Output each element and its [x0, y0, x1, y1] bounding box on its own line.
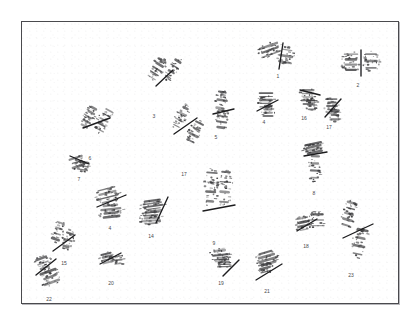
chromosome-label-2: 2: [357, 83, 360, 88]
chromosome-label-5: 5: [215, 135, 218, 140]
plate-inner: 12361754161787414152220919211823: [22, 22, 398, 303]
chromosome-label-8: 8: [313, 191, 316, 196]
chromosome-body-17: [319, 93, 348, 128]
chromosome-group-5: [209, 86, 240, 137]
chromosome-body-1: [254, 36, 302, 73]
chromosome-group-4: [89, 179, 130, 230]
chromosome-label-1: 1: [277, 74, 280, 79]
chromosome-body-14: [136, 192, 172, 236]
chromosome-group-8: [297, 134, 336, 188]
chromosome-body-4: [89, 179, 130, 230]
chromosome-body-22: [28, 249, 67, 294]
chromosome-body-9: [198, 165, 252, 215]
chromosome-label-4: 4: [263, 120, 266, 125]
chromosome-group-3: [143, 53, 192, 90]
chromosome-label-17: 17: [326, 125, 332, 130]
chromosome-label-16: 16: [301, 116, 307, 121]
chromosome-group-2: [339, 47, 388, 80]
chromosome-group-17: [167, 101, 215, 152]
chromosome-body-19: [205, 242, 243, 280]
centromere-marker-9: [203, 205, 235, 211]
chromosome-group-6: [76, 101, 124, 140]
chromosome-body-21: [250, 244, 286, 284]
chromosome-body-17: [167, 101, 215, 152]
chromosome-group-14: [136, 192, 172, 236]
chromosome-label-17: 17: [181, 172, 187, 177]
chromosome-group-18: [291, 207, 332, 238]
chromosome-body-7: [64, 149, 96, 179]
chromosome-group-19: [205, 242, 243, 280]
chromosome-body-4: [252, 87, 282, 124]
chromosome-group-4: [252, 87, 282, 124]
chromosome-body-3: [143, 53, 192, 90]
chromosome-group-21: [250, 244, 286, 284]
chromosome-body-6: [76, 101, 124, 140]
chromosome-body-18: [291, 207, 332, 238]
karyotype-image: 12361754161787414152220919211823: [0, 0, 417, 323]
chromosome-label-22: 22: [46, 297, 52, 302]
chromosome-label-3: 3: [153, 114, 156, 119]
plate-frame: 12361754161787414152220919211823: [21, 21, 399, 304]
chromosome-label-4: 4: [109, 226, 112, 231]
chromosome-label-19: 19: [218, 281, 224, 286]
chromosome-body-5: [209, 86, 240, 137]
chromosome-body-2: [339, 47, 388, 80]
chromosome-group-9: [198, 165, 252, 215]
chromosome-label-7: 7: [78, 177, 81, 182]
chromosome-label-21: 21: [264, 289, 270, 294]
chromosome-group-17: [319, 93, 348, 128]
chromosome-body-23: [333, 198, 383, 265]
chromosome-group-1: [254, 36, 302, 73]
chromosome-group-23: [333, 198, 383, 265]
chromosome-group-22: [28, 249, 67, 294]
chromosome-body-20: [95, 246, 131, 273]
chromosome-body-8: [297, 134, 336, 188]
chromosome-group-7: [64, 149, 96, 179]
chromosome-group-20: [95, 246, 131, 273]
chromosome-label-18: 18: [303, 244, 309, 249]
chromosome-label-20: 20: [108, 281, 114, 286]
chromosome-label-14: 14: [148, 234, 154, 239]
chromosome-label-23: 23: [348, 273, 354, 278]
